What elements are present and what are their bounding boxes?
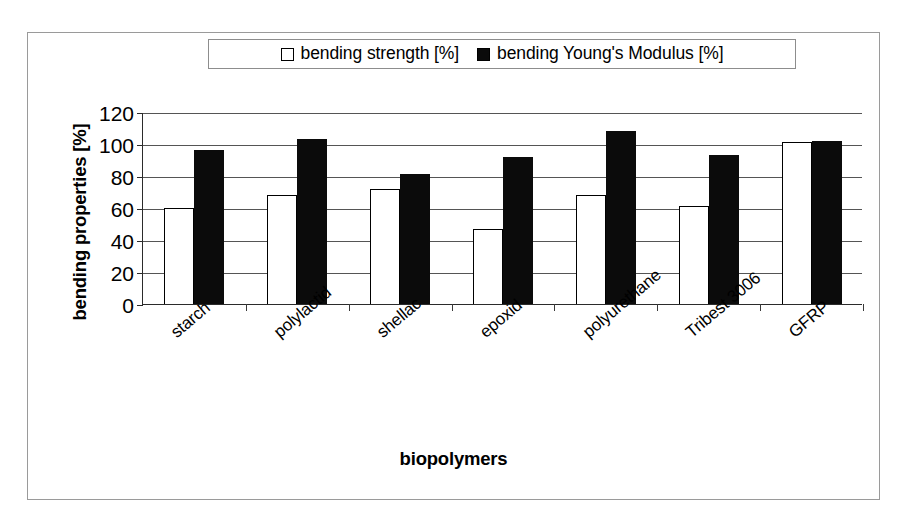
y-axis-tick-label: 20: [111, 263, 134, 284]
legend-swatch-filled-icon: [477, 48, 490, 61]
bar-bending-strength[interactable]: [679, 206, 709, 304]
y-axis-tick-label: 60: [111, 199, 134, 220]
bar-group: [576, 113, 636, 304]
bar-bending-strength[interactable]: [576, 195, 606, 304]
bar-group: [679, 113, 739, 304]
legend-label-bending-youngs-modulus: bending Young's Modulus [%]: [497, 45, 723, 63]
bar-bending-youngs-modulus[interactable]: [297, 139, 327, 304]
bar-bending-youngs-modulus[interactable]: [606, 131, 636, 304]
y-axis-tick-label: 40: [111, 231, 134, 252]
bar-bending-strength[interactable]: [267, 195, 297, 304]
x-axis-tick: [452, 304, 453, 311]
y-axis-tick: [137, 273, 143, 274]
bar-bending-strength[interactable]: [164, 208, 194, 304]
bar-group: [473, 113, 533, 304]
bar-group: [267, 113, 327, 304]
chart-frame: bending strength [%] bending Young's Mod…: [27, 32, 880, 500]
chart-legend: bending strength [%] bending Young's Mod…: [208, 39, 796, 69]
bar-bending-youngs-modulus[interactable]: [812, 141, 842, 304]
bar-bending-strength[interactable]: [370, 189, 400, 304]
legend-entry-bending-youngs-modulus: bending Young's Modulus [%]: [477, 45, 723, 63]
bar-bending-strength[interactable]: [782, 142, 812, 304]
x-axis-tick: [657, 304, 658, 311]
y-axis-tick-label: 100: [99, 135, 134, 156]
bar-bending-youngs-modulus[interactable]: [503, 157, 533, 304]
y-axis-tick-label: 80: [111, 167, 134, 188]
y-axis-tick: [137, 145, 143, 146]
x-axis-tick: [554, 304, 555, 311]
bar-bending-youngs-modulus[interactable]: [400, 174, 430, 304]
y-axis-tick: [137, 209, 143, 210]
legend-entry-bending-strength: bending strength [%]: [281, 45, 460, 63]
bar-bending-youngs-modulus[interactable]: [194, 150, 224, 304]
y-axis-tick: [137, 305, 143, 306]
bar-group: [164, 113, 224, 304]
y-axis-tick: [137, 241, 143, 242]
bar-group: [782, 113, 842, 304]
x-axis-tick: [349, 304, 350, 311]
y-axis-tick-label: 120: [99, 103, 134, 124]
y-axis-tick: [137, 113, 143, 114]
x-axis-tick: [246, 304, 247, 311]
legend-swatch-hollow-icon: [281, 48, 294, 61]
x-axis-tick: [760, 304, 761, 311]
x-axis-title: biopolymers: [28, 448, 879, 470]
y-axis-tick-label: 0: [122, 295, 134, 316]
legend-label-bending-strength: bending strength [%]: [301, 45, 460, 63]
y-axis-title: bending properties [%]: [69, 107, 91, 337]
x-axis-tick: [863, 304, 864, 311]
y-axis-tick: [137, 177, 143, 178]
bar-bending-strength[interactable]: [473, 229, 503, 304]
bar-group: [370, 113, 430, 304]
